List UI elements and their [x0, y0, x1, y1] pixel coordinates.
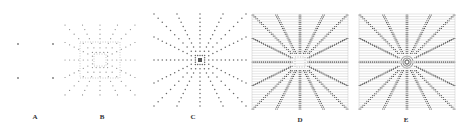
panel-b-graphic — [50, 10, 160, 110]
panel-c — [150, 10, 250, 110]
panel-e — [355, 8, 459, 116]
panel-e-graphic — [355, 8, 459, 116]
panel-c-graphic — [150, 10, 250, 110]
panel-b — [50, 10, 160, 110]
panel-c-label: C — [183, 113, 203, 121]
panel-b-label: B — [92, 113, 112, 121]
panel-d-graphic — [248, 8, 352, 116]
panel-d-label: D — [290, 116, 310, 124]
panel-e-label: E — [396, 116, 416, 124]
panel-a-label: A — [25, 113, 45, 121]
panel-d — [248, 8, 352, 116]
